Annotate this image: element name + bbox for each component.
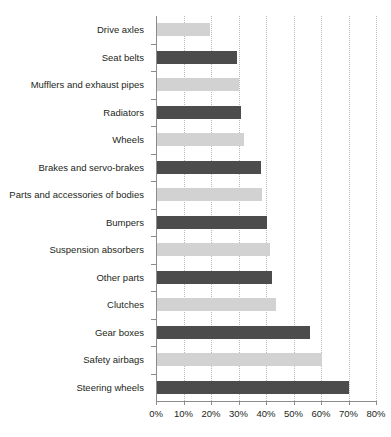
y-axis-tick xyxy=(151,291,156,292)
plot-area xyxy=(156,16,376,401)
bar-row[interactable] xyxy=(156,16,376,44)
category-label: Steering wheels xyxy=(0,382,150,393)
bar-row[interactable] xyxy=(156,44,376,72)
x-axis-tick xyxy=(294,401,295,405)
category-label: Mufflers and exhaust pipes xyxy=(0,79,150,90)
y-axis-tick xyxy=(151,319,156,320)
bar-row[interactable] xyxy=(156,264,376,292)
bar[interactable] xyxy=(156,106,241,119)
y-axis-tick xyxy=(151,71,156,72)
bar[interactable] xyxy=(156,78,239,91)
category-label: Bumpers xyxy=(0,217,150,228)
category-label: Clutches xyxy=(0,299,150,310)
bar-row[interactable] xyxy=(156,209,376,237)
category-label: Parts and accessories of bodies xyxy=(0,189,150,200)
x-tick-label: 40% xyxy=(256,408,275,420)
bar-row[interactable] xyxy=(156,291,376,319)
category-axis-labels: Drive axlesSeat beltsMufflers and exhaus… xyxy=(0,16,150,401)
bar[interactable] xyxy=(156,271,272,284)
bar[interactable] xyxy=(156,381,349,394)
category-label: Safety airbags xyxy=(0,354,150,365)
x-tick-label: 20% xyxy=(201,408,220,420)
x-axis-tick xyxy=(376,401,377,405)
x-tick-label: 30% xyxy=(229,408,248,420)
x-tick-label: 0% xyxy=(149,408,163,420)
x-tick-label: 60% xyxy=(311,408,330,420)
x-tick-label: 50% xyxy=(284,408,303,420)
x-axis-tick xyxy=(211,401,212,405)
y-axis-tick xyxy=(151,209,156,210)
category-label: Other parts xyxy=(0,272,150,283)
category-label: Radiators xyxy=(0,107,150,118)
y-axis-tick xyxy=(151,374,156,375)
bar-row[interactable] xyxy=(156,126,376,154)
bar[interactable] xyxy=(156,353,322,366)
bar-chart: Drive axlesSeat beltsMufflers and exhaus… xyxy=(0,0,391,437)
bar-row[interactable] xyxy=(156,236,376,264)
y-axis-tick xyxy=(151,44,156,45)
x-axis-tick xyxy=(266,401,267,405)
bar[interactable] xyxy=(156,161,261,174)
x-axis-tick-labels: 0%10%20%30%40%50%60%70%80% xyxy=(0,408,391,424)
bar[interactable] xyxy=(156,216,267,229)
x-tick-label: 70% xyxy=(339,408,358,420)
category-label: Brakes and servo-brakes xyxy=(0,162,150,173)
y-axis-tick xyxy=(151,346,156,347)
bar-row[interactable] xyxy=(156,319,376,347)
bar-row[interactable] xyxy=(156,346,376,374)
bar[interactable] xyxy=(156,23,210,36)
x-axis-tick xyxy=(156,401,157,405)
bar[interactable] xyxy=(156,243,270,256)
bar-row[interactable] xyxy=(156,99,376,127)
y-axis-tick xyxy=(151,99,156,100)
x-axis-tick xyxy=(349,401,350,405)
category-label: Seat belts xyxy=(0,52,150,63)
category-label: Suspension absorbers xyxy=(0,244,150,255)
bar[interactable] xyxy=(156,298,276,311)
bar-row[interactable] xyxy=(156,71,376,99)
category-label: Drive axles xyxy=(0,24,150,35)
bar[interactable] xyxy=(156,326,310,339)
category-label: Wheels xyxy=(0,134,150,145)
bar-row[interactable] xyxy=(156,181,376,209)
y-axis-spine xyxy=(156,16,157,401)
bar[interactable] xyxy=(156,133,244,146)
x-axis-tick xyxy=(321,401,322,405)
y-axis-tick xyxy=(151,181,156,182)
x-tick-label: 10% xyxy=(174,408,193,420)
y-axis-tick xyxy=(151,236,156,237)
y-axis-tick xyxy=(151,154,156,155)
y-axis-tick xyxy=(151,126,156,127)
x-axis-tick xyxy=(239,401,240,405)
y-axis-tick xyxy=(151,264,156,265)
x-tick-label: 80% xyxy=(366,408,385,420)
x-axis-tick xyxy=(184,401,185,405)
gridline-80% xyxy=(376,16,377,401)
category-label: Gear boxes xyxy=(0,327,150,338)
bar-row[interactable] xyxy=(156,374,376,402)
bar[interactable] xyxy=(156,188,262,201)
bar-row[interactable] xyxy=(156,154,376,182)
bar[interactable] xyxy=(156,51,237,64)
